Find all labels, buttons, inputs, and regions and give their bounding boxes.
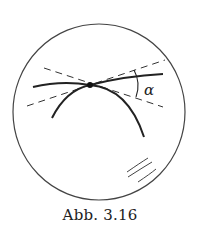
intersection-point — [87, 82, 93, 88]
angle-alpha-label: α — [144, 81, 154, 99]
figure-caption: Abb. 3.16 — [0, 206, 200, 224]
sphere-outline — [13, 24, 185, 200]
reflection-highlight-icon — [127, 158, 156, 182]
sphere-angle-diagram: α Abb. 3.16 — [0, 0, 200, 230]
angle-arc — [134, 70, 138, 97]
